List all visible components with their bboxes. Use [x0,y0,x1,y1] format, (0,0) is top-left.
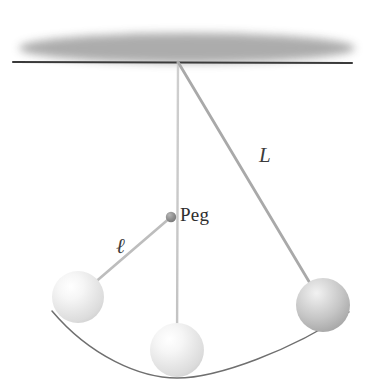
long-string-L [178,62,323,305]
right-bob [296,278,350,332]
peg-dot [166,212,176,222]
label-peg: Peg [180,204,209,226]
pendulum-figure: L ℓ Peg [0,0,370,385]
bottom-bob [150,323,204,377]
pendulum-diagram-svg [0,0,370,385]
vertical-string [177,62,178,350]
left-bob [52,271,104,323]
ceiling-support [13,33,355,63]
label-length-ell: ℓ [116,234,125,259]
ceiling-line [13,62,352,63]
pendulum-bobs [52,271,350,377]
ceiling-slab-shape [19,33,355,63]
label-length-L: L [259,143,271,168]
